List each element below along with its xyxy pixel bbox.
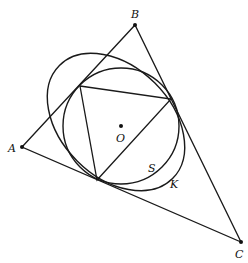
label-b: B xyxy=(130,8,139,21)
geometry-diagram: A B C O S K xyxy=(0,0,248,263)
inner-triangle xyxy=(80,86,171,180)
point-a xyxy=(20,145,24,149)
triangle-abc xyxy=(22,25,241,242)
label-s: S xyxy=(148,162,156,175)
point-b xyxy=(133,23,137,27)
label-k: K xyxy=(169,178,179,191)
label-c: C xyxy=(235,248,244,261)
point-o xyxy=(119,124,123,128)
label-o: O xyxy=(116,132,125,145)
label-a: A xyxy=(7,142,16,155)
point-c xyxy=(239,240,243,244)
